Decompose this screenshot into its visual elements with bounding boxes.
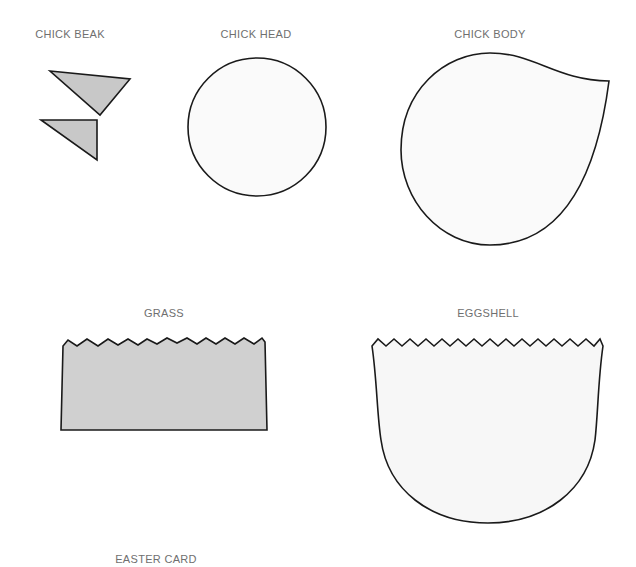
template-canvas: [0, 0, 636, 567]
chick-body-shape: [401, 53, 609, 245]
grass-shape: [61, 338, 267, 430]
beak-upper-triangle: [50, 71, 130, 115]
beak-lower-triangle: [41, 120, 97, 160]
chick-beak-shape: [41, 71, 130, 160]
chick-head-shape: [188, 58, 326, 196]
eggshell-shape: [372, 339, 603, 523]
